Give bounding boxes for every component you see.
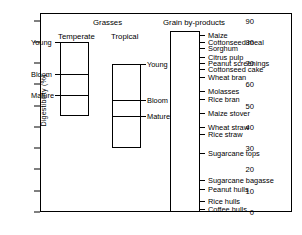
segment-label-mature: Mature — [31, 90, 54, 99]
segment-divider — [112, 116, 141, 117]
grain-tick — [200, 180, 205, 181]
segment-label-young: Young — [147, 60, 168, 69]
grain-label-sugarcane-tops: Sugarcane tops — [208, 149, 260, 158]
grain-label-rice-straw: Rice straw — [208, 130, 243, 139]
segment-tick — [55, 95, 60, 96]
digestibility-chart: Digestibility (%) 0102030405060708090 Gr… — [0, 0, 302, 235]
grain-tick — [200, 113, 205, 114]
range-box-tropical — [112, 64, 141, 148]
segment-tick — [141, 100, 146, 101]
grain-label-maize-stover: Maize stover — [208, 109, 250, 118]
range-box-temperate — [60, 42, 89, 116]
grain-tick — [200, 48, 205, 49]
grain-tick — [200, 127, 205, 128]
grain-tick — [200, 134, 205, 135]
segment-tick — [55, 74, 60, 75]
segment-divider — [60, 74, 89, 75]
grain-label-wheat-bran: Wheat bran — [208, 72, 246, 81]
grain-range-box — [170, 31, 200, 212]
grain-tick — [200, 189, 205, 190]
segment-divider — [60, 95, 89, 96]
grain-tick — [200, 42, 205, 43]
grain-tick — [200, 91, 205, 92]
grain-tick — [200, 201, 205, 202]
grain-label-coffee-hulls: Coffee hulls — [208, 204, 247, 213]
segment-label-bloom: Bloom — [147, 96, 168, 105]
grain-tick — [200, 69, 205, 70]
segment-tick — [141, 64, 146, 65]
grain-tick — [200, 35, 205, 36]
group-title-grasses: Grasses — [93, 18, 122, 27]
grain-tick — [200, 63, 205, 64]
group-title-grain-by-products: Grain by-products — [163, 18, 225, 27]
segment-label-mature: Mature — [147, 112, 170, 121]
grain-tick — [200, 209, 205, 210]
grain-tick — [200, 99, 205, 100]
grain-tick — [200, 153, 205, 154]
segment-tick — [141, 116, 146, 117]
segment-label-bloom: Bloom — [31, 69, 52, 78]
segment-tick — [55, 42, 60, 43]
grain-tick — [200, 57, 205, 58]
subgroup-title-temperate: Temperate — [58, 32, 95, 41]
subgroup-title-tropical: Tropical — [111, 32, 138, 41]
grain-tick — [200, 77, 205, 78]
grain-label-peanut-hulls: Peanut hulls — [208, 184, 249, 193]
grain-label-rice-bran: Rice bran — [208, 95, 240, 104]
segment-divider — [112, 100, 141, 101]
segment-label-young: Young — [31, 37, 52, 46]
